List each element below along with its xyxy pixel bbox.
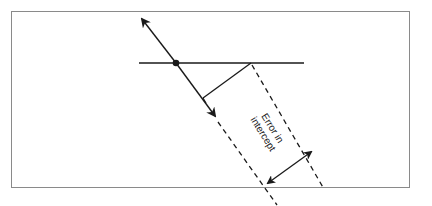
diagram-canvas: [0, 0, 432, 206]
perpendicular-segment: [203, 63, 251, 98]
oblique-line-upper-arrow: [142, 19, 176, 63]
intersection-point-icon: [173, 60, 180, 67]
oblique-line-lower-arrow: [176, 63, 215, 116]
